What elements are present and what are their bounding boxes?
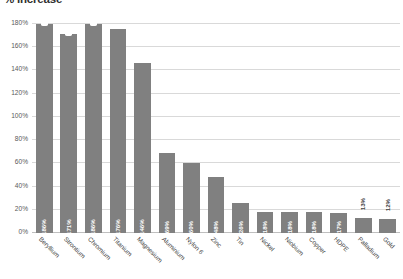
bar[interactable]: 17% xyxy=(330,213,347,233)
bar-value-label: 18% xyxy=(286,221,292,233)
bar[interactable]: 186% xyxy=(36,24,53,233)
y-axis-tick-label: 40% xyxy=(15,182,28,189)
bar[interactable]: 69% xyxy=(159,153,176,233)
bar-value-label: 186% xyxy=(90,219,96,235)
bar-value-label: 171% xyxy=(66,219,72,235)
bar-value-label: 17% xyxy=(336,221,342,233)
bar-slot: 176% xyxy=(106,24,131,233)
bar-slot: 12% xyxy=(375,24,400,233)
x-axis-label-slot: Copper xyxy=(302,235,327,279)
x-axis-label-slot: Nickel xyxy=(253,235,278,279)
bar-slot: 186% xyxy=(32,24,57,233)
bar-value-label: 26% xyxy=(237,221,243,233)
x-axis-label-slot: Aluminium xyxy=(155,235,180,279)
x-axis-category-labels: BerylliumStrontiumChromiumTitaniumMagnes… xyxy=(32,235,400,279)
bar-slot: 171% xyxy=(57,24,82,233)
bar[interactable]: 146% xyxy=(134,63,151,233)
bar-slot: 69% xyxy=(155,24,180,233)
bar[interactable]: 26% xyxy=(232,203,249,233)
bar-value-label: 48% xyxy=(213,221,219,233)
bar-slot: 18% xyxy=(253,24,278,233)
x-axis-label-slot: Niobium xyxy=(277,235,302,279)
bar-value-label: 18% xyxy=(311,221,317,233)
bar[interactable]: 18% xyxy=(257,212,274,233)
x-axis-tick-label: HDPE xyxy=(332,236,349,253)
bar-value-label: 186% xyxy=(41,219,47,235)
y-axis-tick-label: 140% xyxy=(11,66,28,73)
bar[interactable]: 176% xyxy=(110,29,127,233)
x-axis-label-slot: Gold xyxy=(375,235,400,279)
bar-slot: 60% xyxy=(179,24,204,233)
bar[interactable]: 186% xyxy=(85,24,102,233)
plot-area: 0%20%40%60%80%100%120%140%160%180% 186%1… xyxy=(32,24,400,233)
bar-value-label: 176% xyxy=(115,219,121,235)
bar[interactable]: 18% xyxy=(306,212,323,233)
bar-slot: 17% xyxy=(326,24,351,233)
bar-chart: % increase 0%20%40%60%80%100%120%140%160… xyxy=(0,0,403,279)
x-axis-label-slot: Magnesium xyxy=(130,235,155,279)
bar-value-label: 18% xyxy=(262,221,268,233)
x-axis-tick-label: Copper xyxy=(308,236,327,255)
y-axis-tick-label: 180% xyxy=(11,20,28,27)
bar[interactable]: 60% xyxy=(183,163,200,233)
bar-slot: 48% xyxy=(204,24,229,233)
bar-slot: 13% xyxy=(351,24,376,233)
bar-slot: 26% xyxy=(228,24,253,233)
x-axis-tick-label: Zinc xyxy=(209,236,222,249)
x-axis-tick-label: Gold xyxy=(381,236,395,250)
bar[interactable]: 13% xyxy=(355,218,372,233)
x-axis-label-slot: Chromium xyxy=(81,235,106,279)
bar[interactable]: 18% xyxy=(281,212,298,233)
bar-value-label: 13% xyxy=(360,198,366,210)
y-axis-tick-label: 0% xyxy=(18,229,28,236)
x-axis-label-slot: Strontium xyxy=(57,235,82,279)
x-axis-tick-label: Tin xyxy=(234,236,245,247)
x-axis-tick-label: Nylon 6 xyxy=(185,236,205,256)
y-axis-tick-label: 20% xyxy=(15,205,28,212)
bar-value-label: 146% xyxy=(139,219,145,235)
bar[interactable]: 48% xyxy=(208,177,225,233)
x-axis-label-slot: Zinc xyxy=(204,235,229,279)
x-axis-label-slot: Titanium xyxy=(106,235,131,279)
bar[interactable]: 171% xyxy=(60,34,77,233)
bar-value-label: 12% xyxy=(385,199,391,211)
x-axis-label-slot: Beryllium xyxy=(32,235,57,279)
y-axis-tick-label: 100% xyxy=(11,113,28,120)
bar[interactable]: 12% xyxy=(379,219,396,233)
bar-slot: 18% xyxy=(277,24,302,233)
bar-series: 186%171%186%176%146%69%60%48%26%18%18%18… xyxy=(32,24,400,233)
x-axis-tick-label: Nickel xyxy=(259,236,276,253)
y-axis-tick-label: 60% xyxy=(15,159,28,166)
x-axis-label-slot: HDPE xyxy=(326,235,351,279)
bar-slot: 146% xyxy=(130,24,155,233)
chart-title: % increase xyxy=(4,0,62,5)
bar-value-label: 69% xyxy=(164,221,170,233)
bar-slot: 18% xyxy=(302,24,327,233)
x-axis-label-slot: Tin xyxy=(228,235,253,279)
y-axis-tick-label: 80% xyxy=(15,136,28,143)
x-axis-label-slot: Nylon 6 xyxy=(179,235,204,279)
y-axis-tick-label: 160% xyxy=(11,43,28,50)
x-axis-label-slot: Palladium xyxy=(351,235,376,279)
y-axis-tick-label: 120% xyxy=(11,89,28,96)
bar-value-label: 60% xyxy=(188,221,194,233)
bar-slot: 186% xyxy=(81,24,106,233)
